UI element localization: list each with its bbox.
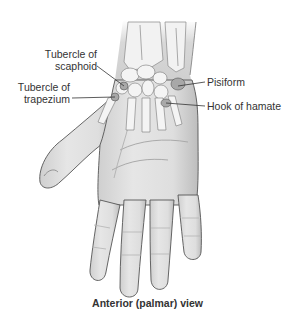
label-tubercle-of-trapezium: Tubercle of trapezium [6,81,70,105]
label-hook-of-hamate: Hook of hamate [207,100,281,112]
label-tubercle-of-scaphoid: Tubercle of scaphoid [39,48,97,72]
label-pisiform: Pisiform [207,76,245,88]
pisiform-bone [171,78,185,90]
figure-caption: Anterior (palmar) view [0,297,295,309]
radius-ulna-bones [124,22,186,72]
